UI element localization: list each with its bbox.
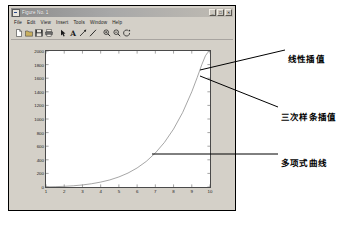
y-tick-label: 800 bbox=[37, 130, 44, 135]
x-tick-label: 5 bbox=[118, 189, 120, 194]
zoom-out-icon[interactable] bbox=[113, 29, 121, 37]
menu-view[interactable]: View bbox=[41, 20, 51, 25]
insert-arrow-icon[interactable] bbox=[79, 29, 87, 37]
annotation-linear-interp: 线性插值 bbox=[288, 52, 325, 64]
maximize-button[interactable]: □ bbox=[217, 9, 224, 16]
x-tick-label: 2 bbox=[63, 189, 65, 194]
toolbar: A bbox=[11, 27, 233, 40]
x-tick-label: 10 bbox=[208, 189, 213, 194]
menu-help[interactable]: Help bbox=[112, 20, 122, 25]
x-tick-label: 7 bbox=[154, 189, 156, 194]
menu-edit[interactable]: Edit bbox=[27, 20, 36, 25]
menu-window[interactable]: Window bbox=[90, 20, 107, 25]
y-tick-label: 0 bbox=[42, 185, 44, 190]
plot-panel: 0200400600800100012001400160018002000 12… bbox=[11, 40, 233, 208]
polynomial-curve-path bbox=[46, 51, 210, 187]
matlab-figure-icon bbox=[12, 9, 20, 17]
y-tick-label: 2000 bbox=[34, 49, 44, 54]
svg-text:A: A bbox=[69, 29, 76, 37]
y-tick-label: 1000 bbox=[34, 117, 44, 122]
y-tick-label: 600 bbox=[37, 144, 44, 149]
x-tick-marks bbox=[46, 51, 210, 187]
window-title-bar[interactable]: Figure No. 1 _ □ ✕ bbox=[11, 8, 233, 17]
new-figure-icon[interactable] bbox=[15, 29, 23, 37]
x-tick-label: 8 bbox=[172, 189, 174, 194]
x-tick-label: 1 bbox=[45, 189, 47, 194]
plot-svg bbox=[46, 51, 210, 187]
screenshot-root: Figure No. 1 _ □ ✕ File Edit View Insert… bbox=[0, 0, 356, 228]
menu-insert[interactable]: Insert bbox=[56, 20, 68, 25]
window-title: Figure No. 1 bbox=[22, 10, 208, 15]
print-icon[interactable] bbox=[45, 29, 53, 37]
y-tick-label: 1800 bbox=[34, 62, 44, 67]
open-file-icon[interactable] bbox=[25, 29, 33, 37]
menu-bar: File Edit View Insert Tools Window Help bbox=[11, 18, 233, 27]
edit-plot-arrow-icon[interactable] bbox=[59, 29, 67, 37]
menu-tools[interactable]: Tools bbox=[73, 20, 84, 25]
rotate-3d-icon[interactable] bbox=[123, 29, 131, 37]
y-tick-label: 1200 bbox=[34, 103, 44, 108]
y-tick-label: 1600 bbox=[34, 76, 44, 81]
y-tick-label: 400 bbox=[37, 157, 44, 162]
zoom-in-icon[interactable] bbox=[103, 29, 111, 37]
y-tick-label: 200 bbox=[37, 171, 44, 176]
matlab-figure-window: Figure No. 1 _ □ ✕ File Edit View Insert… bbox=[8, 5, 236, 211]
annotation-cubic-spline: 三次样条插值 bbox=[281, 110, 336, 122]
y-tick-marks bbox=[46, 51, 210, 187]
insert-text-icon[interactable]: A bbox=[69, 29, 77, 37]
axes-box[interactable]: 0200400600800100012001400160018002000 12… bbox=[45, 50, 211, 188]
close-button[interactable]: ✕ bbox=[225, 9, 232, 16]
x-tick-label: 9 bbox=[191, 189, 193, 194]
y-tick-label: 1400 bbox=[34, 89, 44, 94]
x-tick-label: 6 bbox=[136, 189, 138, 194]
save-icon[interactable] bbox=[35, 29, 43, 37]
minimize-button[interactable]: _ bbox=[209, 9, 216, 16]
insert-line-icon[interactable] bbox=[89, 29, 97, 37]
x-tick-label: 3 bbox=[81, 189, 83, 194]
menu-file[interactable]: File bbox=[14, 20, 22, 25]
annotation-polynomial-curve: 多项式曲线 bbox=[281, 156, 327, 168]
x-tick-label: 4 bbox=[99, 189, 101, 194]
